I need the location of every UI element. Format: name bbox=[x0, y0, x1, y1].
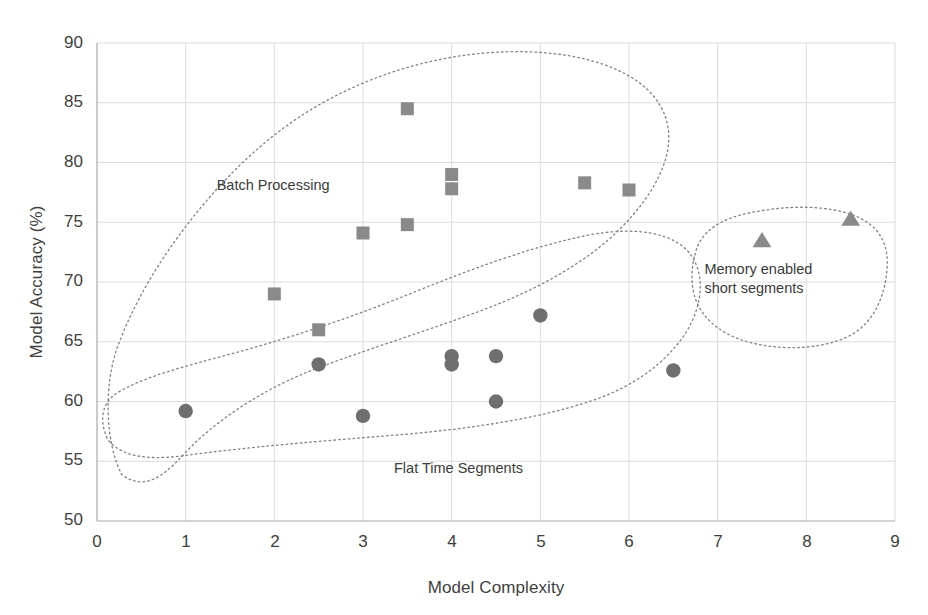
y-tick-label: 60 bbox=[43, 391, 83, 411]
x-tick-label: 5 bbox=[526, 531, 556, 553]
annotation-batch-processing: Batch Processing bbox=[217, 176, 330, 195]
annotation-flat-time-segments: Flat Time Segments bbox=[394, 459, 523, 478]
y-tick-label: 65 bbox=[43, 331, 83, 351]
data-point-circle bbox=[356, 409, 370, 423]
x-tick-label: 3 bbox=[348, 531, 378, 553]
y-tick-label: 75 bbox=[43, 212, 83, 232]
cluster-outline-flat-time-segments bbox=[103, 231, 701, 457]
data-point-triangle bbox=[753, 232, 772, 247]
data-point-square bbox=[268, 287, 281, 300]
data-point-square bbox=[401, 102, 414, 115]
x-axis-title: Model Complexity bbox=[97, 578, 895, 598]
y-tick-label: 55 bbox=[43, 450, 83, 470]
y-tick-label: 85 bbox=[43, 92, 83, 112]
x-tick-label: 8 bbox=[792, 531, 822, 553]
x-tick-label: 4 bbox=[437, 531, 467, 553]
data-point-circle bbox=[533, 308, 547, 322]
data-point-square bbox=[357, 227, 370, 240]
data-point-square bbox=[445, 182, 458, 195]
y-tick-label: 90 bbox=[43, 33, 83, 53]
data-point-circle bbox=[666, 363, 680, 377]
data-point-square bbox=[401, 218, 414, 231]
data-point-square bbox=[623, 183, 636, 196]
cluster-outline-batch-processing bbox=[108, 52, 669, 482]
x-tick-label: 7 bbox=[703, 531, 733, 553]
y-tick-label: 80 bbox=[43, 152, 83, 172]
series-flat-time-segments bbox=[178, 308, 680, 423]
x-tick-label: 1 bbox=[171, 531, 201, 553]
data-point-circle bbox=[489, 394, 503, 408]
data-point-circle bbox=[489, 349, 503, 363]
y-tick-label: 50 bbox=[43, 510, 83, 530]
annotation-memory-enabled-line1: Memory enabled bbox=[704, 260, 812, 279]
data-point-square bbox=[312, 323, 325, 336]
y-tick-label: 70 bbox=[43, 271, 83, 291]
data-point-square bbox=[578, 176, 591, 189]
x-tick-label: 9 bbox=[880, 531, 910, 553]
plot-area: Batch Processing Flat Time Segments Memo… bbox=[97, 43, 895, 521]
data-point-circle bbox=[178, 404, 192, 418]
x-tick-label: 0 bbox=[82, 531, 112, 553]
data-point-circle bbox=[311, 357, 325, 371]
data-point-circle bbox=[444, 357, 458, 371]
annotation-memory-enabled-line2: short segments bbox=[704, 279, 803, 298]
x-tick-label: 6 bbox=[614, 531, 644, 553]
x-tick-label: 2 bbox=[260, 531, 290, 553]
scatter-chart: Model Accuracy (%) Model Complexity 90 8… bbox=[0, 0, 928, 615]
data-point-square bbox=[445, 168, 458, 181]
